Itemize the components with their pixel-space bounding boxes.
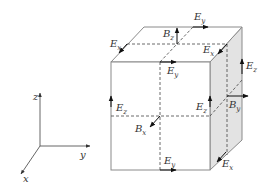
label-ey-top-back: Ey — [193, 11, 206, 25]
z-axis-label: z — [32, 91, 39, 102]
x-axis — [21, 146, 40, 174]
x-axis-label: x — [23, 173, 29, 184]
label-ez-right-back: Ez — [245, 60, 257, 74]
yee-cell-diagram: z y x Ey Bz Ex Ex Ey Ez — [0, 0, 270, 190]
label-ex-bottom-right: Ex — [221, 158, 233, 172]
front-face — [111, 62, 210, 170]
y-axis-label: y — [79, 149, 86, 160]
coordinate-axes: z y x — [21, 91, 90, 184]
label-ex-top-left: Ex — [109, 38, 121, 52]
